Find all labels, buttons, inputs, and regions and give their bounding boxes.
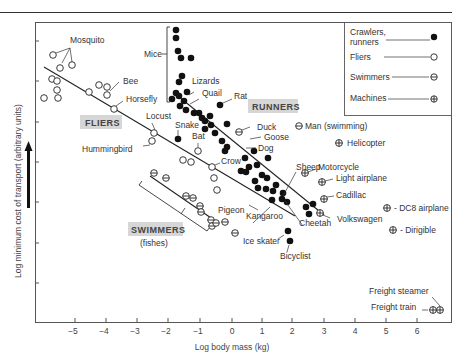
- label-hummingbird: Hummingbird: [82, 144, 133, 154]
- label-ice-skater: Ice skater: [243, 236, 280, 246]
- x-tick: 2: [290, 326, 295, 336]
- x-tick: 6: [415, 326, 420, 336]
- label-duck: Duck: [257, 122, 277, 132]
- x-tick: −5: [68, 326, 78, 336]
- x-tick: 0: [230, 326, 235, 336]
- legend-machines: Machines: [350, 93, 386, 103]
- circle-minus-icon: [431, 74, 437, 80]
- label-cadillac: Cadillac: [336, 190, 367, 200]
- label-motorcycle: Motorcycle: [318, 162, 359, 172]
- label-horsefly: Horsefly: [126, 94, 158, 104]
- label-kangaroo: Kangaroo: [246, 211, 283, 221]
- x-tick: −3: [130, 326, 140, 336]
- x-tick-labels: −5 −4 −3 −2 −1 0 1 2 3 4 5 6: [68, 326, 419, 336]
- label-man-swimming: Man (swimming): [305, 121, 368, 131]
- legend-fliers: Fliers: [350, 52, 371, 62]
- label-light-airplane: Light airplane: [336, 173, 387, 183]
- y-axis-arrow-icon: [25, 141, 33, 208]
- x-tick: 3: [322, 326, 327, 336]
- x-axis-ticks: [75, 318, 417, 322]
- y-axis-ticks: [36, 41, 40, 283]
- legend-crawlers: Crawlers,: [350, 27, 386, 37]
- fliers-fit-line: [44, 67, 295, 216]
- label-freight-steamer: Freight steamer: [369, 286, 429, 296]
- label-pigeon: Pigeon: [218, 205, 245, 215]
- label-freight-train: Freight train: [371, 302, 417, 312]
- label-bicyclist: Bicyclist: [280, 251, 311, 261]
- label-dc8: - DC8 airplane: [394, 203, 449, 213]
- circle-plus-icon: [431, 96, 437, 102]
- mice-bracket: [167, 27, 170, 102]
- legend: Crawlers, runners Fliers Swimmers Machin…: [345, 23, 452, 116]
- x-axis-label: Log body mass (kg): [195, 342, 270, 352]
- scatter-chart: −5 −4 −3 −2 −1 0 1 2 3 4 5 6 Log body ma…: [0, 0, 464, 360]
- label-rat: Rat: [234, 91, 248, 101]
- label-lizards: Lizards: [192, 76, 219, 86]
- swimmers-bracket-stem: [181, 208, 185, 214]
- svg-text:SWIMMERS: SWIMMERS: [131, 225, 186, 235]
- x-tick: 4: [353, 326, 358, 336]
- label-mice: Mice: [144, 49, 162, 59]
- group-label-runners: RUNNERS: [248, 99, 300, 113]
- filled-circle-icon: [431, 34, 437, 40]
- label-dirigible: - Dirigible: [400, 225, 436, 235]
- label-snake: Snake: [175, 120, 199, 130]
- x-tick: −4: [99, 326, 109, 336]
- group-label-swimmers: SWIMMERS (fishes): [128, 222, 186, 248]
- x-tick: 5: [384, 326, 389, 336]
- x-tick: −1: [193, 326, 203, 336]
- x-tick: −2: [161, 326, 171, 336]
- label-cheetah: Cheetah: [299, 218, 331, 228]
- label-locust: Locust: [146, 111, 172, 121]
- label-fishes: (fishes): [140, 238, 168, 248]
- label-volkswagen: Volkswagen: [337, 214, 383, 224]
- svg-text:FLIERS: FLIERS: [85, 118, 120, 128]
- label-quail: Quail: [202, 88, 222, 98]
- label-dog: Dog: [258, 143, 274, 153]
- label-bee: Bee: [123, 76, 138, 86]
- x-tick: 1: [260, 326, 265, 336]
- svg-text:RUNNERS: RUNNERS: [252, 102, 300, 112]
- label-helicopter: Helicopter: [347, 138, 385, 148]
- y-axis-label: Log minimum cost of transport (arbitrary…: [13, 104, 23, 278]
- open-circle-icon: [431, 54, 437, 60]
- label-mosquito: Mosquito: [70, 35, 105, 45]
- label-bat: Bat: [192, 131, 205, 141]
- label-goose: Goose: [264, 132, 289, 142]
- group-label-fliers: FLIERS: [80, 115, 122, 129]
- legend-runners: runners: [350, 37, 379, 47]
- label-crow: Crow: [221, 156, 242, 166]
- legend-swimmers: Swimmers: [350, 72, 390, 82]
